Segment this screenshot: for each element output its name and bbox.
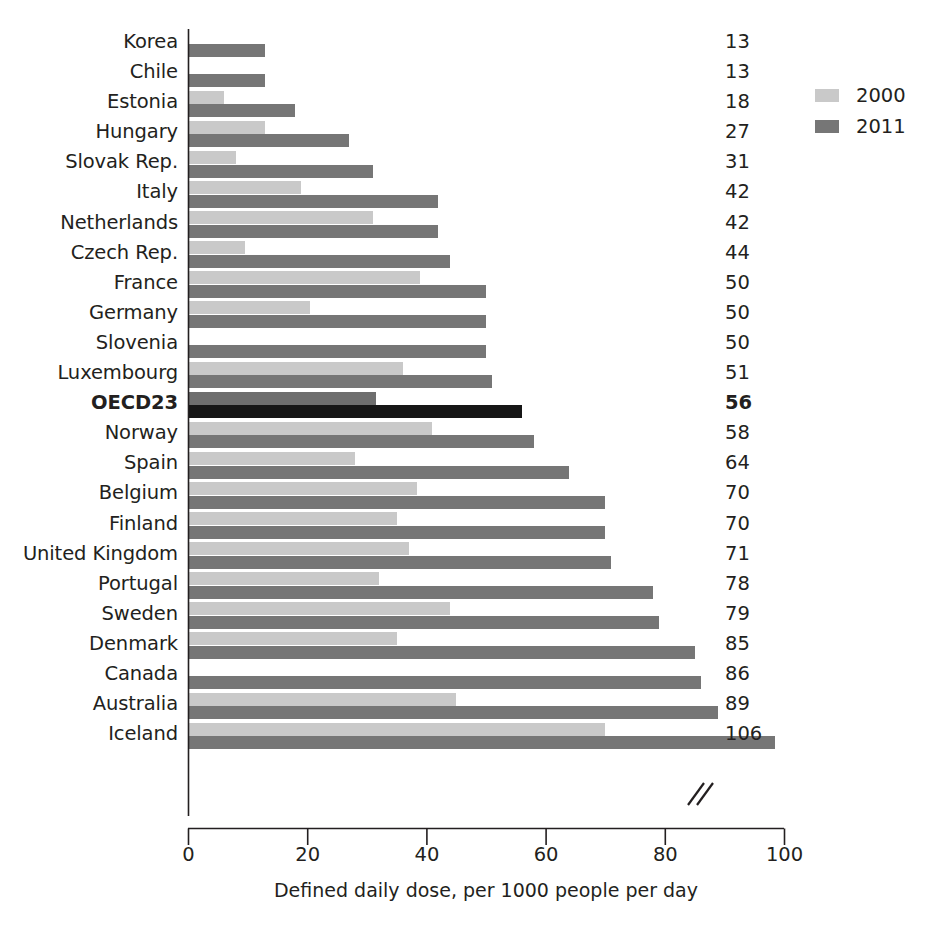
bar-group [188,571,928,601]
bar-2000 [188,632,397,645]
bar-2000 [188,121,265,134]
chart-legend: 2000 2011 [815,80,906,142]
chart-row: Norway58 [0,420,941,450]
value-label: 86 [725,661,750,687]
chart-rows: Korea13Chile13Estonia18Hungary27Slovak R… [0,29,941,751]
value-label: 51 [725,360,750,386]
chart-row: Chile13 [0,59,941,89]
category-label: Chile [0,59,178,85]
bar-group [188,179,928,209]
bar-2011 [188,556,611,569]
bar-group [188,29,928,59]
bar-2000 [188,271,420,284]
bar-2000 [188,301,310,314]
category-label: Slovak Rep. [0,149,178,175]
value-label: 58 [725,420,750,446]
bar-2000 [188,693,456,706]
category-label: United Kingdom [0,541,178,567]
value-label: 70 [725,511,750,537]
category-label: Finland [0,511,178,537]
x-tick-label: 100 [755,843,815,867]
x-tick-label: 60 [516,843,576,867]
chart-row: Sweden79 [0,601,941,631]
bar-group [188,360,928,390]
chart-row: Korea13 [0,29,941,59]
value-label: 70 [725,480,750,506]
chart-row: Germany50 [0,300,941,330]
category-label: Denmark [0,631,178,657]
value-label: 89 [725,691,750,717]
category-label: Korea [0,29,178,55]
bar-2000 [188,151,236,164]
bar-group [188,601,928,631]
chart-row: OECD2356 [0,390,941,420]
bar-2011 [188,285,486,298]
chart-row: Hungary27 [0,119,941,149]
category-label: Luxembourg [0,360,178,386]
bar-2011 [188,526,605,539]
category-label: Canada [0,661,178,687]
bar-2011 [188,496,605,509]
category-label: Sweden [0,601,178,627]
bar-group [188,541,928,571]
bar-group [188,450,928,480]
chart-row: Netherlands42 [0,210,941,240]
x-tick-label: 20 [278,843,338,867]
bar-2011 [188,44,265,57]
chart-row: Slovak Rep.31 [0,149,941,179]
value-label: 42 [725,179,750,205]
bar-2011 [188,676,701,689]
chart-row: Australia89 [0,691,941,721]
bar-2011 [188,134,349,147]
bar-group [188,210,928,240]
bar-2011 [188,345,486,358]
bar-2011 [188,315,486,328]
legend-item-2011[interactable]: 2011 [815,111,906,142]
bar-2011 [188,74,265,87]
category-label: Italy [0,179,178,205]
bar-2000 [188,91,224,104]
bar-2000 [188,512,397,525]
bar-2011 [188,586,653,599]
x-tick-label: 40 [397,843,457,867]
value-label: 13 [725,59,750,85]
bar-2011 [188,255,450,268]
chart-row: Finland70 [0,511,941,541]
bar-2000 [188,602,450,615]
category-label: Slovenia [0,330,178,356]
legend-item-2000[interactable]: 2000 [815,80,906,111]
chart-row: United Kingdom71 [0,541,941,571]
bar-group [188,330,928,360]
bar-2000 [188,542,409,555]
bar-2000 [188,723,605,736]
category-label: OECD23 [0,390,178,416]
bar-group [188,691,928,721]
category-label: Spain [0,450,178,476]
category-label: Iceland [0,721,178,747]
bar-2000 [188,241,245,254]
value-label: 78 [725,571,750,597]
value-label: 64 [725,450,750,476]
category-label: Belgium [0,480,178,506]
bar-2011 [188,225,438,238]
bar-2011 [188,375,492,388]
category-label: France [0,270,178,296]
bar-group [188,511,928,541]
bar-2011 [188,466,569,479]
legend-label-2000: 2000 [856,85,906,107]
chart-row: Czech Rep.44 [0,240,941,270]
bar-group [188,420,928,450]
bar-chart: Korea13Chile13Estonia18Hungary27Slovak R… [0,0,941,937]
bar-group [188,631,928,661]
category-label: Portugal [0,571,178,597]
value-label: 56 [725,390,752,416]
value-label: 71 [725,541,750,567]
x-tick-label: 80 [635,843,695,867]
bar-2000 [188,392,376,405]
chart-row: Luxembourg51 [0,360,941,390]
category-label: Norway [0,420,178,446]
chart-row: Iceland106 [0,721,941,751]
legend-label-2011: 2011 [856,116,906,138]
x-tick-label: 0 [159,843,219,867]
bar-2000 [188,211,373,224]
